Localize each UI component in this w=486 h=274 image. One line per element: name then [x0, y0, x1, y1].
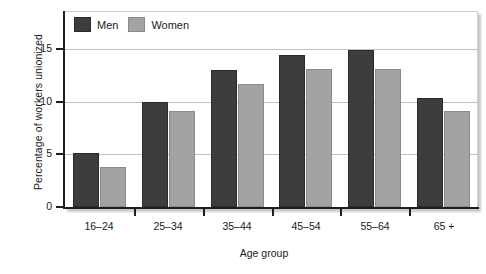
plot-area — [64, 11, 478, 208]
bar-women-4 — [375, 69, 401, 207]
x-tick-label: 55–64 — [340, 220, 410, 232]
bar-chart-figure: Percentage of workers unionized Age grou… — [0, 0, 486, 274]
bar-women-5 — [444, 111, 470, 207]
bar-men-5 — [417, 98, 443, 207]
x-tick-mark — [203, 209, 205, 216]
bar-men-0 — [73, 153, 99, 207]
chart-legend: Men Women — [74, 17, 189, 32]
legend-label-women: Women — [151, 19, 189, 31]
x-axis-spine — [63, 207, 479, 209]
x-tick-label: 25–34 — [133, 220, 203, 232]
y-tick-label: 5 — [12, 148, 52, 159]
bar-men-4 — [348, 50, 374, 207]
bar-men-2 — [211, 70, 237, 207]
bar-women-1 — [169, 111, 195, 207]
y-tick-label: 15 — [12, 43, 52, 54]
legend-item-men: Men — [74, 17, 118, 32]
x-tick-label: 35–44 — [202, 220, 272, 232]
bar-men-1 — [142, 102, 168, 207]
bar-women-2 — [238, 84, 264, 207]
legend-label-men: Men — [97, 19, 118, 31]
x-tick-mark — [134, 209, 136, 216]
legend-swatch-men-icon — [74, 17, 91, 32]
x-tick-label: 45–54 — [271, 220, 341, 232]
x-tick-label: 16–24 — [64, 220, 134, 232]
y-axis-spine — [63, 11, 65, 209]
legend-swatch-women-icon — [128, 17, 145, 32]
x-tick-mark — [409, 209, 411, 216]
bar-women-0 — [100, 167, 126, 207]
x-tick-label: 65 + — [409, 220, 479, 232]
bar-men-3 — [279, 55, 305, 207]
y-tick-label: 10 — [12, 96, 52, 107]
bar-women-3 — [306, 69, 332, 207]
y-tick-label: 0 — [12, 201, 52, 212]
gridline — [65, 49, 478, 50]
x-tick-mark — [272, 209, 274, 216]
x-axis-title: Age group — [64, 247, 464, 259]
legend-item-women: Women — [128, 17, 189, 32]
x-tick-mark — [340, 209, 342, 216]
